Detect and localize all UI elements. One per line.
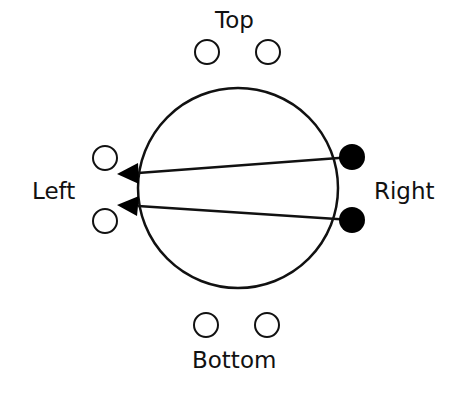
arrow-1 [138,157,352,173]
port-left-1 [93,146,117,170]
port-top-1 [195,40,219,64]
port-top-2 [256,40,280,64]
arrow-2 [138,206,352,220]
port-bottom-1 [194,313,218,337]
label-bottom: Bottom [192,349,276,372]
port-left-2 [93,209,117,233]
label-top: Top [215,9,254,32]
port-right-2 [339,207,365,233]
port-bottom-2 [255,313,279,337]
port-right-1 [339,144,365,170]
main-circle [138,88,338,288]
arrowhead-1-icon [117,163,139,184]
label-right: Right [374,180,435,203]
label-left: Left [32,180,75,203]
arrowhead-2-icon [117,196,139,216]
